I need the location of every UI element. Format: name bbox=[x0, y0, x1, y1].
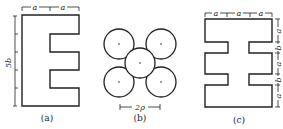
dim-label-c-side2: b bbox=[274, 45, 283, 50]
side-dimension-a bbox=[13, 16, 18, 106]
dim-label-c-top3: a bbox=[259, 9, 264, 18]
caption-b: (b) bbox=[134, 113, 147, 123]
dim-label-c-top1: a bbox=[214, 9, 219, 18]
caption-a: (a) bbox=[41, 113, 53, 123]
dim-label-c-side5: a bbox=[274, 93, 283, 98]
dim-label-c-side4: b bbox=[274, 77, 283, 82]
dim-label-a2: a bbox=[61, 3, 66, 12]
figure-c bbox=[205, 13, 280, 107]
figure-a bbox=[13, 7, 79, 106]
dim-label-c-top2: a bbox=[237, 9, 242, 18]
dim-label-c-side1: a bbox=[274, 28, 283, 33]
e-shape-outline bbox=[22, 15, 79, 106]
dim-label-c-side3: a bbox=[274, 61, 283, 66]
dim-label-a1: a bbox=[33, 3, 38, 12]
double-notch-outline bbox=[205, 19, 272, 107]
dim-label-5b: 5b bbox=[4, 58, 13, 68]
diagram-canvas: a a 5b (a) 2ρ (b) bbox=[0, 0, 283, 129]
dim-label-2rho: 2ρ bbox=[134, 103, 145, 112]
top-dimension-a bbox=[22, 7, 79, 11]
caption-c: (c) bbox=[233, 115, 245, 125]
